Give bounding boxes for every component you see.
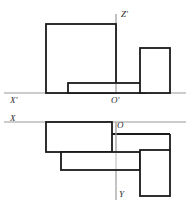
top-upper-wide-rect (46, 122, 112, 152)
projection-drawing-canvas: Z' X' O' X O Y (0, 0, 196, 216)
front-low-wide-slab (68, 83, 145, 93)
label-x: X (9, 113, 16, 123)
label-z-prime: Z' (121, 9, 129, 19)
label-o: O (117, 120, 124, 130)
orthographic-projection-svg: Z' X' O' X O Y (0, 0, 196, 216)
top-view-group: X O Y (4, 113, 186, 200)
front-view-group: Z' X' O' (4, 9, 186, 105)
top-lower-left-rect (61, 152, 140, 170)
label-x-prime: X' (9, 95, 18, 105)
label-o-prime: O' (111, 95, 120, 105)
front-tall-right-block (140, 48, 170, 93)
top-right-tall-rect (140, 150, 170, 196)
label-y: Y (119, 189, 125, 199)
